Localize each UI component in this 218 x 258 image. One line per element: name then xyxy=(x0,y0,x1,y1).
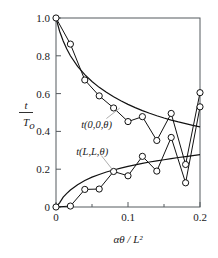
data-point-marker xyxy=(197,90,203,96)
leader-line-1 xyxy=(101,156,113,171)
data-polyline xyxy=(56,18,200,164)
theory-curve-path xyxy=(56,18,200,127)
y-tick-label: 1.0 xyxy=(36,12,50,24)
data-point-marker xyxy=(168,110,174,116)
data-point-marker xyxy=(125,118,131,124)
data-point-marker xyxy=(183,180,189,186)
x-axis-title: αθ / L² xyxy=(113,233,143,245)
y-axis-title-subscript: o xyxy=(29,119,35,131)
curve-label-0: t(0,0,θ) xyxy=(81,119,112,131)
data-point-marker xyxy=(67,41,73,47)
data-markers-group xyxy=(53,15,203,210)
curve-label-1: t(L,L,θ) xyxy=(76,146,109,158)
data-point-marker xyxy=(96,93,102,99)
axis-tick-labels: 00.20.40.60.81.000.10.2 xyxy=(36,12,207,223)
data-point-marker xyxy=(139,153,145,159)
data-point-marker xyxy=(82,186,88,192)
data-point-marker xyxy=(82,77,88,83)
y-tick-label: 0.8 xyxy=(36,50,50,62)
x-tick-label: 0.1 xyxy=(121,211,135,223)
data-point-marker xyxy=(183,161,189,167)
y-tick-label: 0.2 xyxy=(36,163,50,175)
data-point-marker xyxy=(125,173,131,179)
data-point-marker xyxy=(139,114,145,120)
figure-container: 00.20.40.60.81.000.10.2 t(0,0,θ)t(L,L,θ)… xyxy=(0,0,218,258)
data-point-marker xyxy=(197,104,203,110)
y-axis-title-numerator: t xyxy=(24,99,28,111)
data-point-marker xyxy=(154,168,160,174)
data-point-marker xyxy=(168,134,174,140)
theory-curve-path xyxy=(56,155,200,207)
data-point-marker xyxy=(111,168,117,174)
chart-canvas: 00.20.40.60.81.000.10.2 t(0,0,θ)t(L,L,θ)… xyxy=(0,0,218,258)
data-point-marker xyxy=(96,186,102,192)
data-point-marker xyxy=(53,15,59,21)
y-tick-label: 0.6 xyxy=(36,88,50,100)
x-tick-label: 0 xyxy=(53,211,59,223)
data-point-marker xyxy=(53,204,59,210)
data-point-marker xyxy=(67,203,73,209)
x-tick-label: 0.2 xyxy=(193,211,207,223)
data-point-marker xyxy=(111,105,117,111)
y-tick-label: 0.4 xyxy=(36,125,50,137)
curve-annotations: t(0,0,θ)t(L,L,θ) xyxy=(76,108,120,170)
y-tick-label: 0 xyxy=(45,201,51,213)
data-point-marker xyxy=(154,137,160,143)
